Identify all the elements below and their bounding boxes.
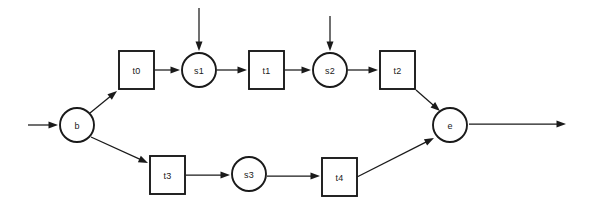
arc-line [91, 137, 141, 160]
place-e[interactable]: e [433, 108, 467, 142]
arrow-head-icon [302, 67, 312, 74]
petri-net-diagram: t0t1t2t3t4 bs1s2s3e [0, 0, 596, 212]
transition-label: t1 [263, 66, 271, 76]
arcs-layer [28, 8, 566, 180]
arc-t3-to-s3 [186, 172, 230, 179]
arc-line [90, 96, 111, 113]
transitions-layer: t0t1t2t3t4 [119, 51, 415, 196]
place-s3[interactable]: s3 [232, 157, 266, 191]
arrow-head-icon [557, 121, 567, 128]
arrow-head-icon [49, 122, 59, 129]
arc-b-to-t3 [91, 137, 148, 163]
arrow-head-icon [369, 67, 379, 74]
arc-input-to-b [28, 122, 58, 129]
arc-line [357, 142, 427, 177]
transition-label: t4 [336, 173, 344, 183]
transition-label: t2 [394, 66, 402, 76]
place-b[interactable]: b [60, 108, 94, 142]
transition-label: t0 [133, 66, 141, 76]
place-s1[interactable]: s1 [182, 53, 216, 87]
arc-line [416, 90, 434, 106]
arc-e-to-output [469, 121, 566, 128]
arrow-head-icon [238, 67, 248, 74]
arrow-head-icon [311, 173, 321, 180]
arc-input-to-s1 [196, 8, 203, 51]
arrow-head-icon [424, 138, 434, 145]
arc-s2-to-t2 [348, 67, 378, 74]
arc-input-to-s2 [327, 16, 334, 51]
arrow-head-icon [138, 156, 148, 163]
arc-s1-to-t1 [217, 67, 247, 74]
diagram-canvas: t0t1t2t3t4 bs1s2s3e [0, 0, 596, 212]
arrow-head-icon [221, 172, 231, 179]
place-label: s1 [194, 66, 204, 76]
arc-t1-to-s2 [285, 67, 311, 74]
arrow-head-icon [171, 67, 181, 74]
transition-t4[interactable]: t4 [322, 158, 357, 196]
arc-s3-to-t4 [267, 173, 320, 180]
place-label: b [74, 121, 79, 131]
arrow-head-icon [196, 42, 203, 52]
transition-t3[interactable]: t3 [150, 156, 185, 194]
transition-label: t3 [164, 171, 172, 181]
arc-b-to-t0 [90, 91, 117, 113]
transition-t2[interactable]: t2 [380, 51, 415, 89]
place-label: s2 [325, 66, 335, 76]
place-label: s3 [244, 170, 254, 180]
place-s2[interactable]: s2 [313, 53, 347, 87]
transition-t0[interactable]: t0 [119, 51, 154, 89]
place-label: e [447, 121, 452, 131]
arc-t2-to-e [416, 90, 440, 111]
arc-t4-to-e [357, 138, 434, 177]
arrow-head-icon [327, 42, 334, 52]
arc-t0-to-s1 [155, 67, 180, 74]
transition-t1[interactable]: t1 [249, 51, 284, 89]
